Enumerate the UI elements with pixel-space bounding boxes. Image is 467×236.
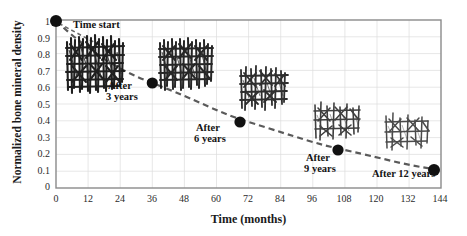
annotation-after-3-years-line2: 3 years (106, 91, 138, 102)
bone-micro-ct-6-years (235, 60, 293, 118)
annotation-after-6-years-line1: After (196, 122, 220, 133)
data-point-72-months[interactable] (234, 116, 245, 127)
annotation-after-9-years-line1: After (306, 152, 330, 163)
annotation-after-6-years-line2: 6 years (194, 133, 226, 144)
annotation-after-3-years-line1: After (108, 80, 132, 91)
bone-micro-ct-12-years (378, 108, 436, 164)
data-point-0-months[interactable] (50, 15, 62, 27)
bone-micro-ct-9-years (308, 96, 366, 150)
annotation-after-9-years-line2: 9 years (304, 163, 336, 174)
bone-density-figure: Normalized bone mineral density Time (mo… (0, 0, 467, 236)
bone-micro-ct-3-years (155, 34, 217, 96)
annotation-after-12-years: After 12 years (372, 168, 435, 179)
annotation-time-start: Time start (73, 19, 120, 30)
